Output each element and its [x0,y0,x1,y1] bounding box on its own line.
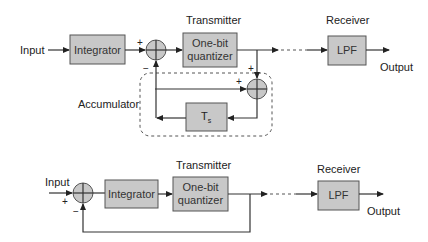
top-input-label: Input [20,44,44,56]
bottom-input-label: Input [45,176,69,188]
top-integrator-label: Integrator [74,44,121,56]
bottom-summer-plus: + [62,196,68,207]
bottom-summer-icon [73,183,93,203]
top-summer-2-icon [247,79,267,99]
top-lpf-label: LPF [337,44,357,56]
bottom-quantizer-line1: One-bit [182,181,218,193]
top-output-label: Output [380,61,413,73]
top-quantizer-line1: One-bit [192,37,228,49]
top-summer1-plus: + [137,37,143,48]
top-quantizer-block: One-bit quantizer [183,33,237,67]
bottom-transmitter-label: Transmitter [176,159,232,171]
bottom-integrator-block: Integrator [105,180,158,208]
bottom-output-label: Output [367,205,400,217]
bottom-lpf-label: LPF [328,189,348,201]
bottom-quantizer-line2: quantizer [178,194,224,206]
bottom-quantizer-block: One-bit quantizer [173,177,228,211]
top-receiver-label: Receiver [326,14,370,26]
top-transmitter-label: Transmitter [186,14,242,26]
delta-sigma-diagram: Input Integrator + − Transmitter One-bit… [0,0,428,242]
delay-block: Ts [186,103,227,131]
bottom-summer-minus: − [73,206,79,217]
top-lpf-block: LPF [328,36,366,65]
accumulator-label: Accumulator [78,98,139,110]
top-summer2-plus-left: + [236,76,242,87]
bottom-diagram: Input + − Integrator Transmitter One-bit… [45,159,400,232]
bottom-receiver-label: Receiver [317,163,361,175]
top-quantizer-line2: quantizer [187,50,233,62]
bottom-lpf-block: LPF [318,181,359,210]
top-summer2-to-delay [228,99,257,118]
delay-subscript: s [208,117,212,124]
top-diagram: Input Integrator + − Transmitter One-bit… [20,14,413,136]
top-summer2-plus-top: + [248,63,254,74]
top-summer1-minus: − [143,63,149,74]
top-summer-1-icon [146,40,166,60]
bottom-integrator-label: Integrator [108,188,155,200]
top-integrator-block: Integrator [70,35,125,64]
